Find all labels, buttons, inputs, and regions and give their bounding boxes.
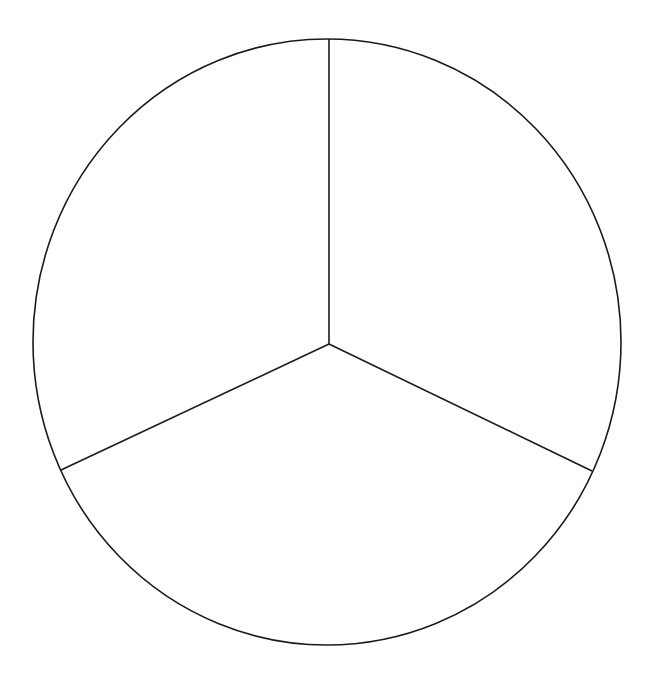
circle-outline	[33, 39, 621, 645]
three-part-circle-diagram	[0, 0, 651, 685]
